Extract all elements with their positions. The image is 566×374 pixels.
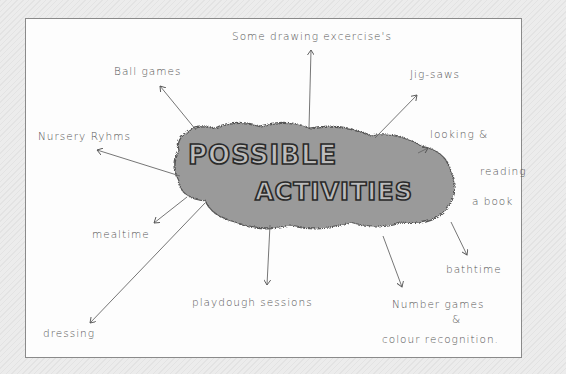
node-colour-recognition: colour recognition. [382, 333, 499, 345]
node-dressing: dressing [43, 327, 95, 339]
node-number-games: Number games [392, 298, 484, 310]
node-bathtime: bathtime [446, 263, 502, 275]
node-looking-line3: a book [472, 195, 513, 207]
node-nursery-rhymes: Nursery Ryhms [38, 130, 131, 142]
node-drawing-exercises: Some drawing excercise's [232, 30, 392, 42]
node-mealtime: mealtime [92, 228, 150, 240]
node-playdough-sessions: playdough sessions [192, 296, 313, 308]
node-jig-saws: Jig-saws [410, 68, 460, 80]
node-looking-line2: reading [480, 165, 527, 177]
central-cloud [174, 122, 454, 227]
center-title-line2: ACTIVITIES [255, 178, 413, 206]
node-looking-line1: looking & [430, 128, 488, 140]
node-ball-games: Ball games [114, 65, 181, 77]
center-title-line1: POSSIBLE [188, 140, 337, 170]
node-number-ampersand: & [452, 313, 461, 325]
